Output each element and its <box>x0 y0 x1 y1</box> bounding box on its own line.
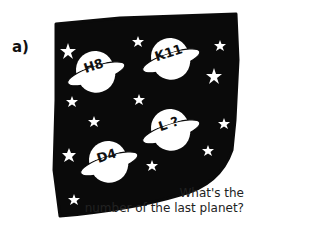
caption-line-2: number of the last planet? <box>85 201 244 216</box>
question-caption: What's the number of the last planet? <box>85 186 244 216</box>
caption-line-1: What's the <box>85 186 244 201</box>
